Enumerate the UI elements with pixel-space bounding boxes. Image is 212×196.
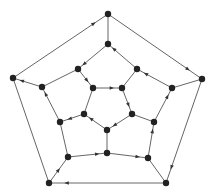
graph-node-n17 <box>129 111 135 117</box>
arrowhead-icon <box>113 122 118 126</box>
nodes-layer <box>10 11 205 186</box>
arrowhead-icon <box>126 102 129 107</box>
directed-edge <box>68 153 107 157</box>
edge <box>13 78 49 183</box>
graph-node-n0 <box>105 11 111 17</box>
graph-node-n5 <box>105 41 111 47</box>
graph-node-n10 <box>104 150 110 156</box>
graph-node-n11 <box>65 154 71 160</box>
graph-node-n18 <box>104 127 110 133</box>
directed-edge <box>154 88 172 122</box>
arrowhead-icon <box>20 80 25 83</box>
directed-edge <box>122 88 132 114</box>
arrowhead-icon <box>64 181 69 185</box>
directed-edge <box>60 114 84 122</box>
edge <box>42 69 78 87</box>
graph-node-n13 <box>39 84 45 90</box>
arrowhead-icon <box>91 22 96 26</box>
directed-edge <box>78 69 93 88</box>
arrowhead-icon <box>135 155 140 159</box>
graph-node-n2 <box>163 180 169 186</box>
arrowhead-icon <box>170 165 173 170</box>
arrowhead-icon <box>144 73 149 77</box>
edge <box>172 79 202 88</box>
edges-layer <box>13 14 202 183</box>
directed-edge <box>107 153 148 158</box>
directed-edge <box>84 114 107 130</box>
graph-node-n6 <box>134 66 140 72</box>
graph-node-n16 <box>119 85 125 91</box>
arrowhead-icon <box>185 66 190 70</box>
edge <box>84 88 93 114</box>
dodecahedral-graph-diagram <box>0 0 212 196</box>
arrowhead-icon <box>150 129 154 134</box>
graph-node-n7 <box>169 85 175 91</box>
graph-node-n15 <box>90 85 96 91</box>
directed-edge <box>107 114 132 130</box>
graph-node-n9 <box>145 155 151 161</box>
arrowhead-icon <box>67 116 72 119</box>
arrowhead-icon <box>89 118 94 122</box>
graph-node-n8 <box>151 119 157 125</box>
edge <box>148 158 166 183</box>
graph-node-n1 <box>199 76 205 82</box>
edge <box>60 122 68 157</box>
graph-node-n4 <box>10 75 16 81</box>
directed-edge <box>148 122 154 158</box>
directed-edge <box>137 69 172 88</box>
graph-node-n14 <box>75 66 81 72</box>
arrowhead-icon <box>45 92 49 97</box>
arrowhead-icon <box>165 95 169 100</box>
directed-edge <box>13 78 42 87</box>
edge <box>122 69 137 88</box>
arrowhead-icon <box>110 86 115 90</box>
arrowhead-icon <box>56 168 60 173</box>
graph-node-n12 <box>57 119 63 125</box>
graph-node-n19 <box>81 111 87 117</box>
graph-node-n3 <box>46 180 52 186</box>
edge <box>132 114 154 122</box>
